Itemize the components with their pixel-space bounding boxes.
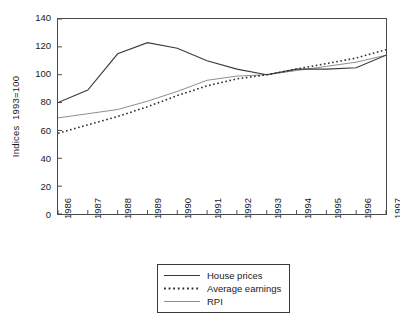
y-axis-title-text: Indices 1993=100 [11,76,22,157]
y-tick-label-0: 0 [17,210,51,220]
chart-figure: Indices 1993=100 140 120 100 80 60 40 20… [0,0,400,317]
legend-item-rpi: RPI [162,295,283,308]
series-line-house-prices [58,43,386,103]
legend-label-rpi: RPI [207,296,223,307]
x-tick-label-1994: 1994 [291,219,303,259]
x-tick-label-1993: 1993 [261,219,273,259]
x-tick-label-1991: 1991 [201,219,213,259]
legend-item-house-prices: House prices [162,269,283,282]
y-tick-label-80: 80 [17,97,51,107]
x-tick-label-1996: 1996 [351,219,363,259]
y-tick-label-100: 100 [17,69,51,79]
y-axis-tick-marks [58,19,62,214]
legend-swatch-dotted-icon [162,283,202,294]
legend-swatch-solid-icon [162,270,202,281]
x-tick-label-1989: 1989 [141,219,153,259]
x-tick-label-1995: 1995 [321,219,333,259]
legend-label-house-prices: House prices [207,270,262,281]
x-tick-label-1997: 1997 [381,219,393,259]
legend-item-average-earnings: Average earnings [162,282,283,295]
legend-swatch-thin-line-icon [162,296,202,307]
y-tick-label-120: 120 [17,41,51,51]
legend-label-average-earnings: Average earnings [207,283,281,294]
y-tick-label-60: 60 [17,126,51,136]
x-tick-label-1992: 1992 [231,219,243,259]
y-tick-label-40: 40 [17,154,51,164]
x-tick-label-1987: 1987 [81,219,93,259]
plot-area [57,18,387,215]
plot-svg [58,19,386,214]
x-tick-label-1986: 1986 [51,219,63,259]
y-tick-label-20: 20 [17,182,51,192]
x-tick-label-1990: 1990 [171,219,183,259]
chart-legend: House prices Average earnings RPI [157,264,290,313]
y-tick-label-140: 140 [17,13,51,23]
series-line-average-earnings [58,50,386,134]
x-tick-label-1988: 1988 [111,219,123,259]
